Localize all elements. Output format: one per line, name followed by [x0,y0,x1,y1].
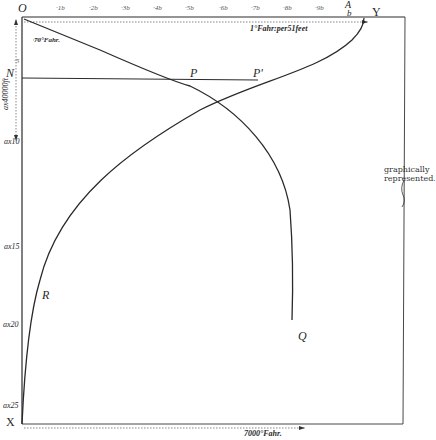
top-dimension-label: 1°Fahr:per51feet [250,25,307,33]
top-tick: ·1b [56,5,65,12]
origin-label: O [18,2,27,14]
point-label-r: R [42,289,49,301]
left-tick: ax20 [3,321,19,329]
left-tick: ax15 [4,243,20,251]
top-tick: ·6b [219,5,228,12]
top-tick: ·7b [251,5,260,12]
point-label-y: Y [372,6,381,18]
top-tick: ·2b [89,5,98,12]
point-label-p-prime: P' [253,67,263,79]
point-label-x: X [6,416,15,428]
right-boundary-line [403,17,405,424]
top-tick: ·9b [315,5,324,12]
line-np [22,78,258,80]
top-tick: ·4b [153,5,162,12]
point-label-q: Q [298,330,307,342]
top-tick: ·3b [121,5,130,12]
point-label-n: N [6,67,14,79]
point-label-b: b [347,9,352,18]
left-tick: ax10 [4,138,20,146]
left-tick: ·5 [14,58,19,65]
point-label-p: P [190,67,197,79]
top-tick: ·5b [185,5,194,12]
bottom-dimension-label: 7000°Fahr. [244,430,282,438]
bracket-note-line2: represented. [384,175,436,183]
left-dimension-label: ax40000ft [2,78,10,110]
curve-opq [24,19,293,320]
seventy-fahr-label: 70°Fahr. [34,37,60,44]
left-tick: ax25 [3,402,19,410]
top-tick: ·8b [283,5,292,12]
